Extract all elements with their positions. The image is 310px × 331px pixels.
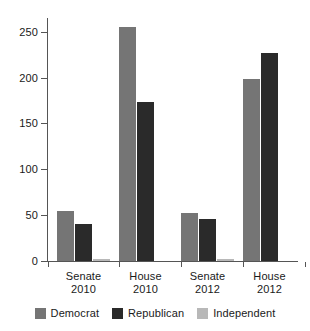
legend-swatch-icon <box>35 308 46 319</box>
bar-chart-figure: 050100150200250 Senate2010House2010Senat… <box>0 0 310 331</box>
chart-legend: DemocratRepublicanIndependent <box>0 307 310 319</box>
bar-republican <box>137 102 154 261</box>
y-axis-tick <box>41 261 47 262</box>
x-axis-line <box>47 261 298 262</box>
y-axis-tick <box>41 169 47 170</box>
y-axis-tick <box>41 78 47 79</box>
legend-entry-democrat[interactable]: Democrat <box>35 307 99 319</box>
y-axis-tick <box>41 32 47 33</box>
x-axis-tick <box>305 262 306 267</box>
y-axis-tick-label: 150 <box>19 117 38 129</box>
bar-group <box>243 18 296 261</box>
plot-area: 050100150200250 Senate2010House2010Senat… <box>47 18 298 262</box>
bar-democrat <box>181 213 198 261</box>
bar-independent <box>93 259 110 261</box>
bar-independent <box>217 259 234 261</box>
y-axis-tick-label: 200 <box>19 72 38 84</box>
x-axis-tick <box>48 262 49 267</box>
x-axis-tick <box>119 262 120 267</box>
bar-republican <box>75 224 92 261</box>
bar-group <box>57 18 110 261</box>
x-axis-category-label: House2012 <box>233 270 307 296</box>
bar-democrat <box>57 211 74 261</box>
bar-republican <box>199 219 216 261</box>
legend-swatch-icon <box>197 308 208 319</box>
y-axis-tick <box>41 123 47 124</box>
bar-democrat <box>119 27 136 261</box>
bar-republican <box>261 53 278 261</box>
legend-label: Republican <box>128 307 184 319</box>
y-axis-tick <box>41 215 47 216</box>
bar-group <box>181 18 234 261</box>
legend-label: Independent <box>213 307 275 319</box>
y-axis-line <box>47 18 48 262</box>
legend-label: Democrat <box>51 307 99 319</box>
legend-entry-republican[interactable]: Republican <box>112 307 184 319</box>
x-axis-category-label-line: 2012 <box>233 283 307 296</box>
x-axis-tick <box>181 262 182 267</box>
y-axis-tick-label: 100 <box>19 163 38 175</box>
legend-entry-independent[interactable]: Independent <box>197 307 275 319</box>
y-axis-tick-label: 50 <box>26 209 38 221</box>
x-axis-tick <box>243 262 244 267</box>
bar-group <box>119 18 172 261</box>
y-axis-tick-label: 0 <box>32 255 38 267</box>
legend-swatch-icon <box>112 308 123 319</box>
bar-democrat <box>243 79 260 261</box>
y-axis-tick-label: 250 <box>19 26 38 38</box>
x-axis-category-label-line: House <box>233 270 307 283</box>
